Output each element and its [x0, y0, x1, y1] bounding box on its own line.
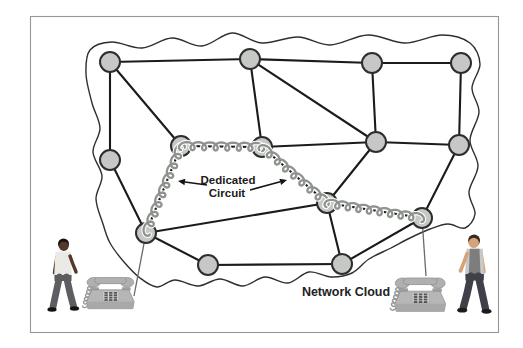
network-node-n4 — [451, 53, 471, 73]
phone-keypad-button — [414, 299, 418, 301]
phone-base-front — [87, 302, 135, 309]
network-node-n14 — [332, 254, 352, 274]
diagram-render-layer — [31, 17, 499, 333]
network-node-n1 — [100, 52, 120, 72]
phone-keypad-button — [104, 294, 107, 296]
phone-keypad-button — [104, 299, 107, 301]
phone-keypad-button — [109, 294, 112, 296]
figure: Dedicated Circuit Network Cloud — [0, 0, 523, 348]
phone-keypad-button — [424, 296, 428, 298]
person-shoe — [457, 308, 467, 313]
network-node-n8 — [366, 132, 386, 152]
phone-keypad-button — [114, 292, 117, 294]
phone-keypad-button — [419, 296, 423, 298]
phone-base-front — [395, 304, 446, 312]
phone-keypad-button — [109, 292, 112, 294]
phone-keypad-button — [414, 301, 418, 303]
network-cloud-label: Network Cloud — [302, 285, 390, 299]
network-edge-n13-n14 — [208, 264, 342, 265]
phone-keypad-button — [109, 299, 112, 301]
phone-handset-bar — [95, 277, 127, 283]
person-shoe — [47, 307, 56, 311]
person-hand — [459, 269, 463, 273]
phone-keypad-button — [419, 294, 423, 296]
telephone-illustration-1 — [83, 277, 135, 308]
person-shoe — [482, 309, 492, 314]
phone-keypad-button — [109, 297, 112, 299]
phone-keypad-button — [114, 299, 117, 301]
person-head — [59, 241, 69, 251]
phone-keypad-button — [419, 299, 423, 301]
phone-keypad-button — [419, 301, 423, 303]
person-head — [469, 238, 479, 248]
phone-keypad-button — [414, 296, 418, 298]
phone-keypad-button — [424, 299, 428, 301]
telephone-illustration-2 — [390, 278, 445, 311]
phone-keypad-button — [104, 297, 107, 299]
network-node-n2 — [240, 49, 260, 69]
person-hand — [74, 270, 78, 274]
network-node-n13 — [198, 255, 218, 275]
phone-handset-bar — [403, 278, 437, 285]
dedicated-circuit-label-line2: Circuit — [209, 187, 246, 199]
person-shoe — [70, 306, 79, 310]
dedicated-circuit-label-line1: Dedicated — [201, 174, 256, 186]
phone-keypad-button — [424, 294, 428, 296]
network-diagram: Dedicated Circuit Network Cloud — [0, 0, 523, 348]
phone-keypad-button — [424, 301, 428, 303]
network-node-n5 — [100, 150, 120, 170]
network-node-n3 — [362, 53, 382, 73]
phone-keypad-button — [104, 292, 107, 294]
phone-keypad-button — [414, 294, 418, 296]
network-node-n9 — [449, 135, 469, 155]
phone-keypad-button — [114, 297, 117, 299]
phone-keypad-button — [114, 294, 117, 296]
